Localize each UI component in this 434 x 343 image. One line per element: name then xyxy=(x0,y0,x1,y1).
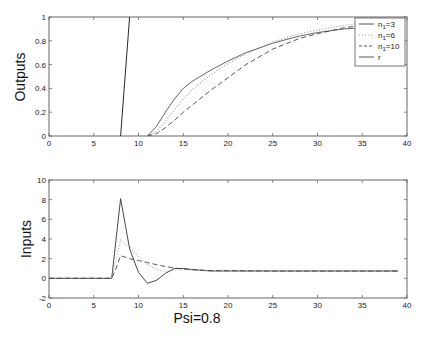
x-tick-label: 25 xyxy=(268,301,277,310)
legend-label: n1=6 xyxy=(378,31,395,41)
legend-label: r xyxy=(378,53,381,62)
outputs-axes: 0510152025303540 00.20.40.60.81 Outputs … xyxy=(12,13,412,148)
x-tick-label: 5 xyxy=(92,301,97,310)
legend-label: n1=10 xyxy=(378,42,400,52)
outputs-plot-frame xyxy=(49,17,407,136)
y-tick-label: 6 xyxy=(42,215,47,224)
inputs-plot-frame xyxy=(49,180,407,298)
inputs-axes: 0510152025303540 -20246810 Inputs Psi=0.… xyxy=(18,176,412,326)
x-tick-label: 0 xyxy=(47,301,52,310)
y-tick-label: 0.6 xyxy=(35,61,47,70)
legend: n1=3n1=6n1=10r xyxy=(355,18,405,66)
inputs-x-label: Psi=0.8 xyxy=(173,310,220,326)
x-tick-label: 15 xyxy=(179,139,188,148)
y-tick-label: 1 xyxy=(42,13,47,22)
y-tick-label: 0.8 xyxy=(35,37,47,46)
y-tick-label: -2 xyxy=(39,294,47,303)
x-tick-label: 15 xyxy=(179,301,188,310)
y-tick-label: 0.4 xyxy=(35,84,47,93)
x-tick-label: 30 xyxy=(313,139,322,148)
x-tick-label: 20 xyxy=(224,301,233,310)
x-tick-label: 10 xyxy=(134,139,143,148)
x-tick-label: 40 xyxy=(403,301,412,310)
y-tick-label: 0.2 xyxy=(35,108,47,117)
x-tick-label: 30 xyxy=(313,301,322,310)
x-tick-label: 40 xyxy=(403,139,412,148)
y-tick-label: 10 xyxy=(37,176,46,185)
outputs-y-label: Outputs xyxy=(12,52,28,101)
x-tick-label: 5 xyxy=(92,139,97,148)
x-tick-label: 35 xyxy=(358,139,367,148)
y-tick-label: 8 xyxy=(42,196,47,205)
y-tick-label: 2 xyxy=(42,255,47,264)
x-tick-label: 0 xyxy=(47,139,52,148)
x-tick-label: 10 xyxy=(134,301,143,310)
y-tick-label: 0 xyxy=(42,274,47,283)
x-tick-label: 35 xyxy=(358,301,367,310)
x-tick-label: 20 xyxy=(224,139,233,148)
y-tick-label: 4 xyxy=(42,235,47,244)
legend-label: n1=3 xyxy=(378,20,395,30)
figure: 0510152025303540 00.20.40.60.81 Outputs … xyxy=(0,0,434,343)
inputs-y-label: Inputs xyxy=(18,220,34,258)
x-tick-label: 25 xyxy=(268,139,277,148)
y-tick-label: 0 xyxy=(42,132,47,141)
